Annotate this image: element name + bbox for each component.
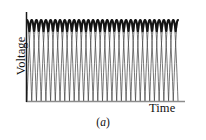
caption-close-paren: )	[106, 116, 110, 128]
figure-caption: (a)	[0, 116, 206, 128]
x-axis-label: Time	[149, 101, 175, 116]
figure-container: Voltage Time (a)	[0, 0, 206, 140]
y-axis-label: Voltage	[14, 11, 28, 101]
phase-waveform-group	[27, 20, 178, 101]
output-envelope-curve	[27, 20, 178, 31]
